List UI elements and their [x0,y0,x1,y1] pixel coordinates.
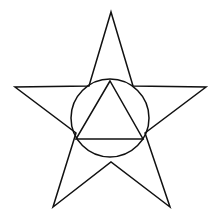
five-pointed-star [15,12,206,207]
inscribed-circle [71,79,149,157]
diagram-canvas [0,0,221,222]
star-circle-triangle-figure [0,0,221,222]
inscribed-triangle [76,81,143,139]
